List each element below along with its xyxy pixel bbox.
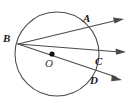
ray-b-d-arrowhead <box>111 75 122 81</box>
point-label-c: C <box>95 56 102 67</box>
point-label-a: A <box>83 13 90 24</box>
ray-b-c-arrowhead <box>116 49 127 55</box>
point-label-b: B <box>3 33 10 44</box>
geometry-canvas <box>0 0 129 103</box>
ray-b-c-line <box>18 44 120 52</box>
center-dot <box>49 51 54 56</box>
circle-shape <box>15 12 99 96</box>
ray-b-a-arrowhead <box>113 17 124 23</box>
point-label-d: D <box>90 75 98 86</box>
geometry-figure: A B O C D <box>0 0 129 103</box>
center-label-o: O <box>45 58 53 69</box>
ray-b-a-line <box>18 20 118 44</box>
